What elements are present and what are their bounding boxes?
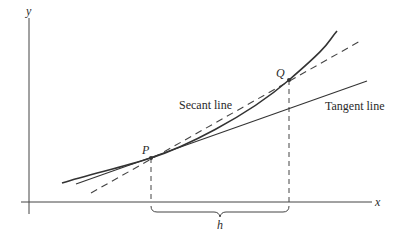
tangent-line — [76, 81, 367, 184]
secant-line-label: Secant line — [179, 98, 232, 112]
point-p — [149, 156, 153, 160]
point-q-label: Q — [276, 66, 285, 80]
x-axis-label: x — [374, 195, 381, 209]
tangent-line-label: Tangent line — [325, 99, 384, 113]
point-p-label: P — [141, 143, 150, 157]
y-axis-label: y — [25, 4, 32, 18]
secant-tangent-diagram: y x P Q Secant line Tangent line h — [0, 0, 398, 240]
interval-brace — [151, 206, 289, 217]
interval-label: h — [217, 218, 223, 232]
point-q — [287, 78, 291, 82]
secant-line — [91, 40, 362, 193]
